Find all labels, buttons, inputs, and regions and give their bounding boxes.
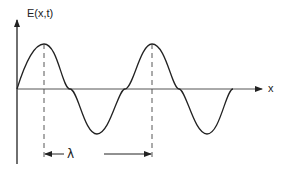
wavelength-label: λ — [67, 148, 74, 160]
x-axis-label: x — [268, 83, 274, 94]
wave-diagram — [0, 0, 281, 171]
y-axis-label: E(x,t) — [27, 8, 53, 19]
